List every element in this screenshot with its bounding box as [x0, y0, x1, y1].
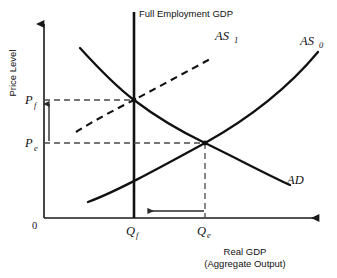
svg-text:f: f: [136, 230, 140, 240]
equilibrium-point-e: [203, 141, 208, 146]
x-tick-label-qe: Q e: [197, 224, 211, 240]
svg-text:e: e: [34, 143, 38, 153]
svg-text:Q: Q: [126, 224, 135, 238]
y-tick-label-pf: P f: [24, 93, 38, 110]
ad-curve-label: AD: [286, 173, 304, 187]
ad-curve: [80, 48, 290, 185]
chart-canvas: Full Employment GDP AS 1 AS 0 AD P f P e…: [0, 0, 337, 278]
svg-text:AS: AS: [299, 34, 315, 48]
as1-curve-label: AS 1: [214, 29, 238, 45]
svg-text:P: P: [24, 93, 33, 107]
equilibrium-point-f: [132, 98, 137, 103]
x-tick-label-qf: Q f: [126, 224, 140, 240]
svg-text:e: e: [207, 230, 211, 240]
svg-text:0: 0: [319, 40, 324, 50]
as0-curve: [88, 52, 318, 202]
svg-text:f: f: [34, 100, 38, 110]
as1-curve: [76, 58, 212, 132]
svg-text:P: P: [24, 136, 33, 150]
ad-as-diagram-figure: Full Employment GDP AS 1 AS 0 AD P f P e…: [0, 0, 337, 278]
origin-label: 0: [32, 220, 37, 231]
x-axis-title-line1: Real GDP: [224, 246, 267, 257]
svg-text:AS: AS: [214, 29, 230, 43]
curves-group: [76, 48, 318, 202]
x-axis-title-line2: (Aggregate Output): [204, 258, 285, 269]
equilibrium-guides: [44, 100, 205, 218]
as0-curve-label: AS 0: [299, 34, 324, 50]
svg-text:1: 1: [234, 35, 238, 45]
y-axis-title: Price Level: [7, 50, 18, 97]
svg-text:Q: Q: [197, 224, 206, 238]
y-tick-label-pe: P e: [24, 136, 38, 153]
full-employment-gdp-label: Full Employment GDP: [139, 8, 233, 19]
